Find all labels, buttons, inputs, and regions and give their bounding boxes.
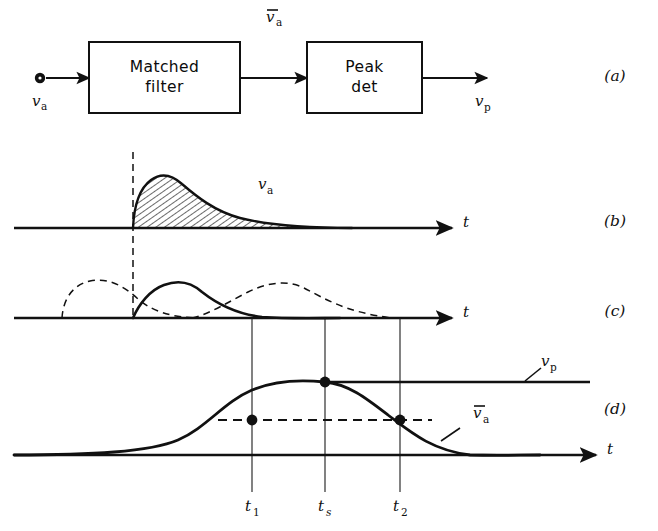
intermediate-signal-sub: a: [276, 16, 282, 28]
panel-c-dashed-pulse-early: [62, 280, 196, 318]
panel-b-axis-label-t: t: [463, 213, 470, 231]
time-marker-ts-sub: s: [326, 506, 332, 518]
figure-canvas: Matched filter Peak det v a v a v p (a): [0, 0, 658, 531]
averaged-output-curve: [14, 381, 540, 456]
sample-dot-t1: [247, 415, 258, 426]
averaged-output-label-base: v: [473, 404, 482, 422]
panel-label-a: (a): [604, 67, 625, 85]
time-marker-t2-sub: 2: [401, 506, 408, 518]
peak-detector-label-line1: Peak: [345, 58, 383, 76]
output-signal-sub: p: [484, 101, 491, 113]
peak-level-label-base: v: [541, 352, 550, 370]
input-node-highlight: [38, 76, 41, 79]
panel-b-input-waveform: v a t (b): [14, 152, 626, 247]
time-marker-ts: t s: [318, 497, 332, 518]
panel-a-block-diagram: Matched filter Peak det v a v a v p (a): [32, 8, 626, 113]
matched-filter-label-line2: filter: [145, 78, 184, 96]
peak-level-label-sub: p: [550, 361, 557, 373]
panel-d-axis-label-t: t: [607, 440, 614, 458]
panel-label-d: (d): [604, 400, 626, 418]
time-marker-t1-base: t: [245, 497, 252, 515]
panel-label-c: (c): [605, 302, 626, 320]
time-marker-t2: t 2: [393, 497, 408, 518]
time-marker-ts-base: t: [318, 497, 325, 515]
averaged-output-label-sub: a: [483, 413, 489, 425]
sample-dot-t2: [395, 415, 406, 426]
time-marker-t1: t 1: [245, 497, 260, 518]
technical-figure: Matched filter Peak det v a v a v p (a): [0, 0, 658, 531]
output-signal-base: v: [475, 92, 484, 110]
time-marker-t1-sub: 1: [253, 506, 260, 518]
matched-filter-label-line1: Matched: [130, 58, 199, 76]
intermediate-signal-base: v: [266, 8, 275, 26]
input-signal-base: v: [32, 92, 41, 110]
input-signal-sub: a: [41, 100, 47, 112]
output-signal-label: v p: [475, 92, 491, 113]
peak-level-label: v p: [541, 352, 557, 373]
peak-detector-label-line2: det: [351, 78, 378, 96]
panel-b-curve-label: v a: [258, 175, 273, 196]
sample-dot-ts: [320, 377, 331, 388]
input-pulse-fill: [133, 175, 352, 228]
panel-b-curve-label-base: v: [258, 175, 267, 193]
peak-level-leader: [525, 368, 541, 381]
panel-label-b: (b): [604, 212, 626, 230]
averaged-output-label: v a: [473, 404, 489, 425]
intermediate-signal-label: v a: [266, 8, 282, 28]
panel-c-axis-label-t: t: [463, 303, 470, 321]
averaged-output-leader: [441, 428, 460, 441]
panel-c-dashed-pulse-late: [192, 283, 392, 318]
input-signal-label: v a: [32, 92, 47, 112]
panel-b-curve-label-sub: a: [267, 184, 273, 196]
time-marker-t2-base: t: [393, 497, 400, 515]
panel-d-peak-detection: v p v a t 1 t s t 2 t (d): [14, 352, 626, 518]
